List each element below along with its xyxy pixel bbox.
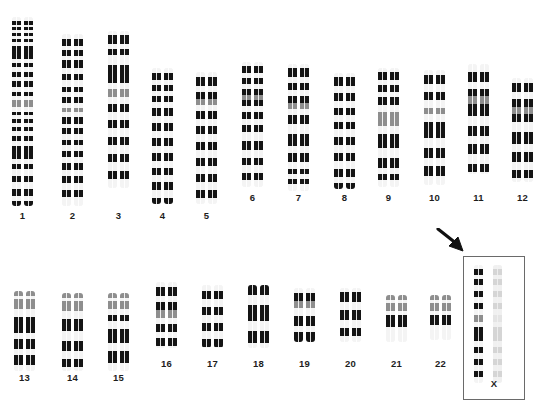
- chromosome-10-a: [424, 70, 433, 185]
- chromosome-22-a: [430, 295, 439, 340]
- chromatid-split: [112, 293, 113, 371]
- chromosome-label-3: 3: [98, 210, 139, 221]
- chromosome-11-b: [480, 64, 489, 174]
- chromatid-split: [160, 282, 161, 348]
- chromosome-14-b: [74, 293, 83, 371]
- chromosome-9-a: [378, 68, 387, 187]
- chromatid-split: [18, 291, 19, 371]
- chromatid-split: [472, 64, 473, 174]
- chromatid-split: [156, 68, 157, 204]
- chromatid-split: [212, 72, 213, 204]
- chromosome-4-b: [164, 68, 173, 204]
- chromosome-pair-22: [430, 295, 451, 340]
- chromosome-14-a: [62, 293, 71, 371]
- chromosome-17-a: [202, 285, 211, 348]
- chromosome-8-b: [346, 73, 355, 189]
- chromosome-label-20: 20: [330, 358, 371, 369]
- chromosome-label-22: 22: [420, 358, 461, 369]
- chromatid-split: [382, 68, 383, 187]
- chromosome-pair-14: [62, 293, 83, 371]
- chromatid-split: [206, 285, 207, 348]
- chromosome-7-b: [300, 64, 309, 191]
- chromosome-label-17: 17: [192, 358, 233, 369]
- chromosome-label-6: 6: [232, 192, 273, 203]
- chromosome-20-a: [340, 288, 349, 342]
- chromosome-17-b: [214, 285, 223, 348]
- chromosome-pair-7: [288, 64, 309, 191]
- chromosome-3-a: [108, 31, 117, 188]
- chromatid-split: [356, 288, 357, 342]
- chromosome-pair-17: [202, 285, 223, 348]
- chromosome-22-b: [442, 295, 451, 340]
- chromosome-16-b: [168, 282, 177, 348]
- chromatid-split: [344, 288, 345, 342]
- chromosome-18-b: [260, 285, 269, 348]
- chromosome-pair-4: [152, 68, 173, 204]
- chromosome-label-8: 8: [324, 192, 365, 203]
- chromosome-pair-19: [294, 288, 315, 342]
- chromatid-split: [516, 78, 517, 182]
- chromatid-split: [428, 70, 429, 185]
- chromosome-label-14: 14: [52, 372, 93, 383]
- chromatid-split: [528, 78, 529, 182]
- chromatid-split: [402, 295, 403, 342]
- chromosome-18-a: [248, 285, 257, 348]
- chromatid-split: [218, 285, 219, 348]
- chromosome-4-a: [152, 68, 161, 204]
- chromosome-21-b: [398, 295, 407, 342]
- chromatid-split: [16, 17, 17, 206]
- chromosome-pair-13: [14, 291, 35, 371]
- chromatid-split: [246, 62, 247, 187]
- chromosome-1-a: [12, 17, 21, 206]
- chromosome-7-a: [288, 64, 297, 191]
- chromatid-split: [78, 34, 79, 206]
- chromosome-pair-18: [248, 285, 269, 348]
- chromatid-split: [172, 282, 173, 348]
- chromosome-9-b: [390, 68, 399, 187]
- chromosome-10-b: [436, 70, 445, 185]
- chromosome-13-b: [26, 291, 35, 371]
- chromosome-pair-9: [378, 68, 399, 187]
- chromatid-split: [66, 293, 67, 371]
- chromatid-split: [112, 31, 113, 188]
- chromosome-label-16: 16: [146, 358, 187, 369]
- chromatid-split: [298, 288, 299, 342]
- chromosome-label-9: 9: [368, 192, 409, 203]
- chromosome-label-15: 15: [98, 372, 139, 383]
- chromatid-split: [350, 73, 351, 189]
- chromosome-11-a: [468, 64, 477, 174]
- chromosome-pair-8: [334, 73, 355, 189]
- chromatid-split: [394, 68, 395, 187]
- chromosome-21-a: [386, 295, 395, 342]
- chromosome-16-a: [156, 282, 165, 348]
- chromosome-label-21: 21: [376, 358, 417, 369]
- chromosome-5-b: [208, 72, 217, 204]
- chromatid-split: [168, 68, 169, 204]
- chromosome-15-b: [120, 293, 129, 371]
- chromatid-split: [30, 291, 31, 371]
- chromosome-12-a: [512, 78, 521, 182]
- chromatid-split: [338, 73, 339, 189]
- chromosome-2-a: [62, 34, 71, 206]
- chromatid-split: [310, 288, 311, 342]
- chromosome-label-X: X: [463, 378, 525, 389]
- chromatid-split: [200, 72, 201, 204]
- chromatid-split: [446, 295, 447, 340]
- chromatid-split: [304, 64, 305, 191]
- chromosome-8-a: [334, 73, 343, 189]
- chromatid-split: [28, 17, 29, 206]
- chromosome-pair-6: [242, 62, 263, 187]
- chromosome-label-10: 10: [414, 192, 455, 203]
- chromosome-pair-11: [468, 64, 489, 174]
- pointer-arrow: [436, 228, 466, 254]
- chromosome-label-19: 19: [284, 358, 325, 369]
- chromatid-split: [440, 70, 441, 185]
- karyogram-canvas: 12345678910111213141516171819202122X: [0, 0, 549, 418]
- chromatid-split: [258, 62, 259, 187]
- chromosome-pair-5: [196, 72, 217, 204]
- chromosome-19-b: [306, 288, 315, 342]
- chromosome-pair-20: [340, 288, 361, 342]
- chromosome-20-b: [352, 288, 361, 342]
- chromatid-split: [292, 64, 293, 191]
- chromatid-split: [252, 285, 253, 348]
